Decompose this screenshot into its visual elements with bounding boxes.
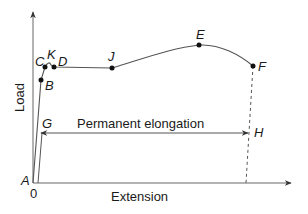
point-J-dot: [110, 66, 115, 71]
label-F: F: [258, 59, 267, 74]
point-B-dot: [39, 78, 44, 83]
label-J: J: [107, 49, 115, 64]
y-axis-label: Load: [12, 83, 27, 112]
permanent-elongation-label: Permanent elongation: [77, 116, 204, 131]
unloading-line: [38, 133, 42, 183]
label-B: B: [45, 78, 54, 93]
label-K: K: [47, 47, 57, 62]
label-E: E: [196, 27, 205, 42]
label-A: A: [20, 173, 30, 188]
label-D: D: [58, 54, 67, 69]
origin-label: 0: [30, 186, 37, 201]
label-G: G: [42, 116, 52, 131]
point-F-dot: [251, 64, 256, 69]
x-axis-label: Extension: [111, 189, 168, 204]
point-E-dot: [197, 43, 202, 48]
load-extension-diagram: A B C K D J E F G H Permanent elongation…: [0, 0, 308, 214]
label-H: H: [254, 125, 264, 140]
label-C: C: [35, 54, 45, 69]
fracture-dashed-line: [246, 66, 253, 183]
point-D-dot: [52, 65, 57, 70]
